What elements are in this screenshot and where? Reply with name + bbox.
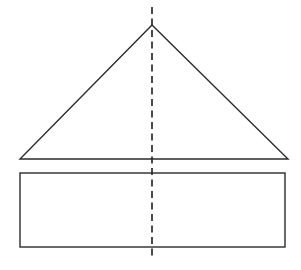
- figure-canvas: [0, 0, 301, 270]
- canvas-background: [0, 0, 301, 270]
- geometric-figure-svg: [0, 0, 301, 270]
